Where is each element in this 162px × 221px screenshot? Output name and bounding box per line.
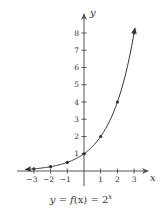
x-axis-label: x	[150, 172, 156, 183]
data-point	[133, 31, 136, 34]
x-tick-label: −3	[26, 175, 37, 184]
data-point	[82, 152, 85, 155]
y-tick-label: 3	[74, 115, 79, 124]
x-tick-label: 2	[115, 175, 120, 184]
data-point	[49, 165, 52, 168]
x-tick-label: −2	[43, 175, 54, 184]
y-tick-label: 4	[74, 98, 79, 107]
caption-base: = 2	[87, 194, 108, 205]
y-tick-label: 6	[74, 63, 79, 72]
y-tick-label: 7	[74, 46, 79, 55]
curve	[26, 28, 135, 169]
caption-arg: (x)	[74, 194, 87, 205]
x-tick-label: 3	[132, 175, 137, 184]
data-point	[66, 161, 69, 164]
chart-caption: y = f(x) = 2x	[0, 194, 162, 205]
y-axis-label: y	[89, 7, 96, 18]
x-tick-label: 1	[98, 175, 103, 184]
data-point	[99, 135, 102, 138]
y-tick-label: 5	[74, 80, 79, 89]
curve-line	[28, 28, 135, 169]
y-tick-label: 8	[74, 29, 79, 38]
data-point	[32, 167, 35, 170]
caption-eq: =	[55, 194, 70, 205]
data-point	[116, 100, 119, 103]
y-tick-label: 2	[74, 132, 79, 141]
x-tick-label: −1	[60, 175, 71, 184]
caption-exponent: x	[108, 193, 112, 201]
exponential-function-plot: −3−2−112312345678xy	[0, 0, 162, 221]
